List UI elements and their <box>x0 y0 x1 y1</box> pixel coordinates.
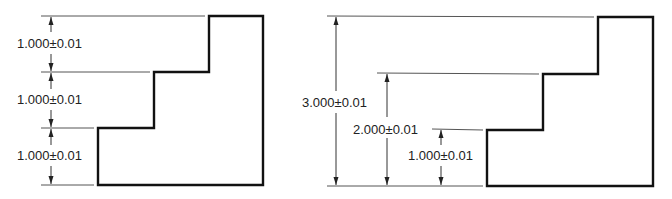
dimensioning-drawing: 1.000±0.01 1.000±0.01 1.000±0.01 <box>0 0 672 199</box>
stepped-part-outline-right <box>487 17 653 186</box>
extension-line <box>327 16 594 17</box>
dimension-label: 1.000±0.01 <box>408 148 473 163</box>
left-diagram: 1.000±0.01 1.000±0.01 1.000±0.01 <box>17 16 263 185</box>
dimension-label: 1.000±0.01 <box>17 148 82 163</box>
stepped-part-outline-left <box>98 16 263 185</box>
extension-line <box>432 129 483 130</box>
extension-line <box>377 73 539 74</box>
dimension-label: 1.000±0.01 <box>17 92 82 107</box>
dimension-label: 3.000±0.01 <box>302 95 367 110</box>
dimension-overall: 3.000±0.01 <box>302 17 367 185</box>
dimension-top: 1.000±0.01 <box>17 17 82 71</box>
dimension-label: 2.000±0.01 <box>353 122 418 137</box>
dimension-middle: 2.000±0.01 <box>353 74 418 185</box>
dimension-middle: 1.000±0.01 <box>17 73 82 127</box>
dimension-label: 1.000±0.01 <box>17 36 82 51</box>
dimension-bottom: 1.000±0.01 <box>17 129 82 184</box>
dimension-small: 1.000±0.01 <box>408 130 473 185</box>
right-diagram: 3.000±0.01 2.000±0.01 1.000±0.01 <box>302 16 653 186</box>
